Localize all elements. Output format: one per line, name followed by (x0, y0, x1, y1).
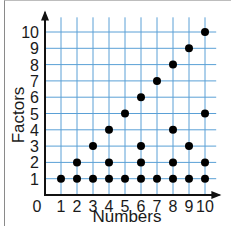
y-axis-arrow-icon (41, 10, 49, 20)
x-tick-label: 10 (196, 198, 214, 215)
y-tick-label: 5 (30, 106, 39, 123)
y-axis-label: Factors (9, 87, 28, 144)
y-tick-label: 4 (30, 122, 39, 139)
data-point (121, 110, 129, 118)
data-point (137, 175, 145, 183)
factors-scatter-chart: 012345678910 12345678910 Numbers Factors (0, 0, 231, 226)
x-tick-label: 1 (57, 198, 66, 215)
x-tick-label: 2 (73, 198, 82, 215)
data-point (201, 110, 209, 118)
data-point (105, 175, 113, 183)
data-points (57, 28, 209, 183)
axes (41, 10, 221, 199)
data-point (201, 158, 209, 166)
x-tick-label: 8 (169, 198, 178, 215)
data-point (201, 175, 209, 183)
data-point (73, 158, 81, 166)
data-point (73, 175, 81, 183)
data-point (57, 175, 65, 183)
data-point (89, 142, 97, 150)
data-point (105, 158, 113, 166)
data-point (89, 175, 97, 183)
data-point (153, 175, 161, 183)
data-point (169, 61, 177, 69)
data-point (137, 158, 145, 166)
data-point (169, 175, 177, 183)
y-tick-label: 2 (30, 154, 39, 171)
data-point (105, 126, 113, 134)
data-point (185, 175, 193, 183)
data-point (169, 158, 177, 166)
data-point (169, 126, 177, 134)
data-point (201, 28, 209, 36)
data-point (137, 142, 145, 150)
y-tick-label: 9 (30, 40, 39, 57)
y-tick-label: 6 (30, 89, 39, 106)
data-point (185, 142, 193, 150)
x-axis-label: Numbers (93, 207, 162, 226)
y-tick-label: 10 (21, 24, 39, 41)
y-tick-label: 7 (30, 73, 39, 90)
y-tick-label: 1 (30, 171, 39, 188)
grid-lines (45, 17, 216, 195)
y-tick-label: 8 (30, 57, 39, 74)
data-point (153, 77, 161, 85)
data-point (121, 175, 129, 183)
x-tick-label: 0 (33, 198, 42, 215)
y-tick-label: 3 (30, 138, 39, 155)
data-point (137, 93, 145, 101)
x-tick-label: 9 (185, 198, 194, 215)
data-point (185, 44, 193, 52)
